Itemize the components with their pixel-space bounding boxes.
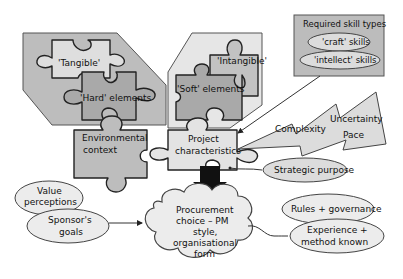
- intellect-skills-label: 'intellect' skills: [314, 55, 377, 65]
- intangible-soft-cluster: 'Intangible' 'Soft' elements: [168, 33, 267, 128]
- cloud-line3: style,: [193, 227, 217, 237]
- value-label-line1: Value: [37, 186, 62, 196]
- environmental-context-piece: Environmental context: [74, 116, 147, 192]
- sponsor-label-line1: Sponsor's: [48, 215, 92, 225]
- project-label-line1: Project: [188, 134, 219, 144]
- complexity-label: Complexity: [275, 124, 327, 134]
- craft-skills-label: 'craft' skills: [322, 37, 370, 47]
- procurement-diagram: 'Tangible' 'Hard' elements 'Intangible' …: [0, 0, 403, 279]
- cloud-line2: choice – PM: [176, 216, 229, 226]
- intangible-label: 'Intangible': [217, 56, 267, 66]
- environmental-label-line2: context: [83, 145, 117, 155]
- value-label-line2: perceptions: [24, 197, 77, 207]
- environmental-label-line1: Environmental: [82, 133, 147, 143]
- sponsor-label-line2: goals: [59, 227, 83, 237]
- tangible-hard-cluster: 'Tangible' 'Hard' elements: [23, 33, 166, 125]
- cloud-line1: Procurement: [176, 205, 234, 215]
- tangible-label: 'Tangible': [58, 58, 100, 68]
- uncertainty-label: Uncertainty: [330, 114, 383, 124]
- experience-label-line2: method known: [301, 237, 368, 247]
- hard-elements-label: 'Hard' elements: [80, 93, 151, 103]
- experience-label-line1: Experience +: [307, 225, 368, 235]
- pace-label: Pace: [343, 130, 364, 140]
- project-label-line2: characteristics: [175, 146, 241, 156]
- cloud-line4: organisational: [173, 238, 237, 248]
- strategic-purpose-label: Strategic purpose: [274, 165, 355, 175]
- soft-elements-label: 'Soft' elements: [177, 84, 245, 94]
- project-characteristics-piece: Project characteristics: [150, 118, 258, 170]
- skills-box-title: Required skill types: [303, 19, 387, 29]
- rules-experience-cluster: Rules + governance Experience + method k…: [248, 194, 384, 253]
- rules-governance-label: Rules + governance: [291, 204, 382, 214]
- procurement-choice-cloud: Procurement choice – PM style, organisat…: [145, 183, 252, 259]
- cloud-line5: form: [194, 249, 215, 259]
